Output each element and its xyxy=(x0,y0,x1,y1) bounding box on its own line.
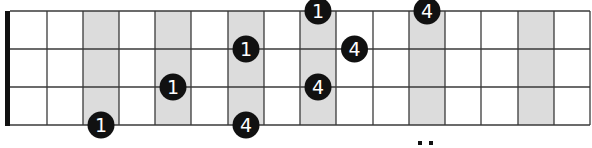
finger-number: 1 xyxy=(167,76,179,98)
shaded-fret-12 xyxy=(409,11,445,125)
finger-number: 1 xyxy=(95,114,107,136)
finger-number: 4 xyxy=(312,76,324,98)
shaded-fret-7 xyxy=(228,11,264,125)
fretboard-diagram: 11114444 xyxy=(0,0,592,148)
finger-number: 1 xyxy=(312,0,324,22)
shaded-fret-3 xyxy=(83,11,119,125)
finger-number: 4 xyxy=(421,0,433,22)
fret-marker-dot xyxy=(429,141,433,145)
nut xyxy=(5,11,10,126)
shaded-fret-15 xyxy=(518,11,554,125)
finger-number: 4 xyxy=(240,114,252,136)
shaded-fret-5 xyxy=(155,11,191,125)
shaded-fret-9 xyxy=(300,11,336,125)
finger-number: 4 xyxy=(348,38,360,60)
fret-marker-dot xyxy=(418,141,422,145)
finger-number: 1 xyxy=(240,38,252,60)
